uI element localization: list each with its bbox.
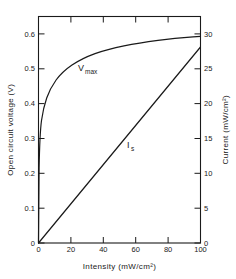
y2-tick-label-2: 10 bbox=[204, 169, 212, 178]
is-annotation: I s bbox=[127, 140, 135, 152]
vmax-curve bbox=[39, 36, 201, 243]
y-tick-label-3: 0.3 bbox=[25, 134, 35, 143]
y-axis-title: Open circuit voltage (V) bbox=[6, 84, 15, 176]
plot-frame bbox=[39, 17, 201, 244]
top-axis-ticks bbox=[71, 17, 168, 23]
x-tick-label-1: 20 bbox=[67, 245, 75, 254]
y2-tick-label-6: 30 bbox=[204, 30, 212, 39]
x-tick-label-2: 40 bbox=[99, 245, 107, 254]
figure-container: 0 20 40 60 80 100 0 0.1 0.2 0.3 0.4 0.5 … bbox=[0, 0, 236, 279]
x-tick-label-3: 60 bbox=[132, 245, 140, 254]
y2-tick-label-1: 5 bbox=[204, 204, 208, 213]
y-tick-label-4: 0.4 bbox=[25, 99, 35, 108]
is-label-main: I bbox=[127, 140, 130, 150]
x-axis-title: Intensity (mW/cm²) bbox=[83, 262, 156, 271]
y2-axis-title: Current (mW/cm²) bbox=[221, 95, 230, 165]
vmax-label-sub: max bbox=[85, 68, 98, 75]
x-tick-label-4: 80 bbox=[164, 245, 172, 254]
y-tick-label-2: 0.2 bbox=[25, 169, 35, 178]
y2-tick-label-3: 15 bbox=[204, 134, 212, 143]
x-tick-label-0: 0 bbox=[36, 245, 40, 254]
x-axis-ticks bbox=[39, 237, 201, 243]
y-tick-label-5: 0.5 bbox=[25, 64, 35, 73]
y-tick-label-1: 0.1 bbox=[25, 204, 35, 213]
y2-axis-ticks bbox=[195, 34, 201, 243]
y-tick-label-0: 0 bbox=[31, 239, 35, 248]
vmax-label-main: V bbox=[78, 63, 84, 73]
y-axis-ticks bbox=[39, 34, 45, 243]
is-line bbox=[39, 47, 201, 243]
y2-tick-label-5: 25 bbox=[204, 64, 212, 73]
is-label-sub: s bbox=[131, 145, 135, 152]
y2-tick-label-4: 20 bbox=[204, 99, 212, 108]
y2-tick-label-0: 0 bbox=[204, 239, 208, 248]
vmax-annotation: V max bbox=[78, 63, 98, 75]
photovoltaic-chart: 0 20 40 60 80 100 0 0.1 0.2 0.3 0.4 0.5 … bbox=[0, 0, 236, 279]
y-tick-label-6: 0.6 bbox=[25, 30, 35, 39]
